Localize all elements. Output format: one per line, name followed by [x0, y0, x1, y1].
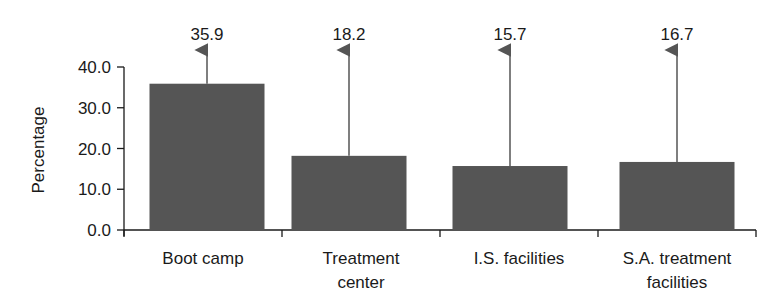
- category-label: I.S. facilities: [474, 249, 565, 268]
- category-label: Boot camp: [162, 249, 243, 268]
- bar: [453, 166, 568, 230]
- bar: [292, 156, 407, 230]
- y-tick-label: 40.0: [78, 58, 111, 77]
- y-tick-label: 20.0: [78, 140, 111, 159]
- category-label: facilities: [647, 273, 707, 292]
- value-labels: 35.918.215.716.7: [190, 25, 693, 44]
- value-label: 15.7: [493, 25, 526, 44]
- y-axis-label: Percentage: [29, 107, 48, 194]
- x-axis: [124, 230, 756, 237]
- y-tick-label: 10.0: [78, 180, 111, 199]
- y-tick-label: 30.0: [78, 99, 111, 118]
- value-label: 16.7: [660, 25, 693, 44]
- category-labels: Boot campTreatmentcenterI.S. facilitiesS…: [162, 249, 731, 292]
- category-label: Treatment: [323, 249, 400, 268]
- value-label: 18.2: [332, 25, 365, 44]
- value-label: 35.9: [190, 25, 223, 44]
- category-label: S.A. treatment: [623, 249, 732, 268]
- bar: [620, 162, 735, 230]
- y-tick-label: 0.0: [87, 221, 111, 240]
- y-axis: 0.010.020.030.040.0: [78, 58, 124, 240]
- value-arrows: [207, 50, 677, 166]
- bar: [150, 84, 265, 230]
- bar-chart: Percentage 0.010.020.030.040.0 35.918.21…: [0, 0, 779, 308]
- bars: [150, 84, 735, 230]
- category-label: center: [337, 273, 385, 292]
